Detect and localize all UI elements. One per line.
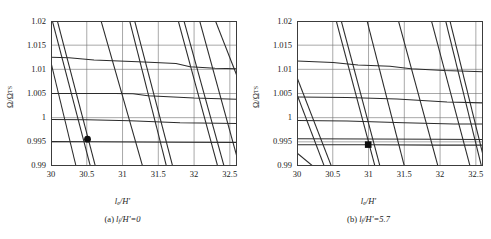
panel-a-svg [51,21,237,166]
panel-a: Ω/ΩTS 1.02 1.015 1.01 1.005 1 0.995 0.99 [0,0,245,239]
panel-b-xtick-30: 30 [277,170,317,179]
panel-b-plot-area [297,21,483,166]
panel-a-x-axis-label: le/H' [0,196,245,206]
panel-a-x-axis-label-rest: /H' [120,196,130,206]
panel-a-ytick-1010: 1.01 [0,65,46,74]
panel-b-ytick-1000: 1 [246,113,292,122]
panel-b-caption-rest: /H'=5.7 [363,214,390,224]
panel-b-xtick-31: 31 [349,170,389,179]
panel-b-operating-point-marker [365,141,372,148]
panel-b-xtick-32: 32 [420,170,460,179]
panel-a-ytick-1005: 1.005 [0,89,46,98]
panel-a-xtick-30: 30 [31,170,71,179]
panel-b-ytick-0995: 0.995 [246,137,292,146]
panel-a-ytick-1015: 1.015 [0,41,46,50]
panel-b-caption-prefix: (b) [347,214,359,224]
panel-b-xtick-325: 32.5 [456,170,491,179]
panel-a-branch-4 [51,57,237,68]
panel-a-plot-area [51,21,237,166]
panel-b-xtick-315: 31.5 [384,170,424,179]
panel-a-ytick-1000: 1 [0,113,46,122]
panel-a-ytick-1020: 1.02 [0,17,46,26]
panel-b-branch-2 [297,139,483,140]
panel-a-branch-3 [51,94,237,100]
panel-b-eo-line-2 [297,94,324,166]
panel-b-ytick-1005: 1.005 [246,89,292,98]
panel-b-branch-4 [297,97,483,103]
panel-b-caption: (b) lf/H'=5.7 [246,214,491,224]
panel-b-ytick-1010: 1.01 [246,65,292,74]
panel-a-caption: (a) lf/H'=0 [0,214,245,224]
panel-b-eo-line-10 [450,21,483,155]
panel-b-x-axis-label: le/H' [246,196,491,206]
panel-a-caption-prefix: (a) [105,214,117,224]
panel-b-svg [297,21,483,166]
panel-b: Ω/ΩTS 1.02 1.015 1.01 1.005 1 0.995 0.99 [246,0,491,239]
panel-b-ytick-0990: 0.99 [246,161,292,170]
panel-a-xtick-325: 32.5 [210,170,250,179]
panel-a-ytick-0995: 0.995 [0,137,46,146]
panel-b-x-axis-label-rest: /H' [366,196,376,206]
panel-a-operating-point-marker [84,136,91,143]
panel-a-xtick-31: 31 [103,170,143,179]
panel-b-eo-line-3 [297,153,313,166]
figure-root: Ω/ΩTS 1.02 1.015 1.01 1.005 1 0.995 0.99 [0,0,491,239]
panel-b-eo-line-1 [297,78,331,167]
panel-a-xtick-315: 31.5 [138,170,178,179]
panel-b-ytick-1015: 1.015 [246,41,292,50]
panel-a-caption-rest: /H'=0 [120,214,140,224]
panel-a-eo-line-9 [200,21,237,157]
panel-b-xtick-305: 30.5 [313,170,353,179]
panel-a-xtick-32: 32 [174,170,214,179]
panel-a-eo-line-10 [216,21,238,76]
panel-b-ytick-1020: 1.02 [246,17,292,26]
panel-b-branch-5 [297,61,483,72]
panel-a-xtick-305: 30.5 [67,170,107,179]
panel-a-ytick-0990: 0.99 [0,161,46,170]
panel-b-branch-3 [297,121,483,125]
